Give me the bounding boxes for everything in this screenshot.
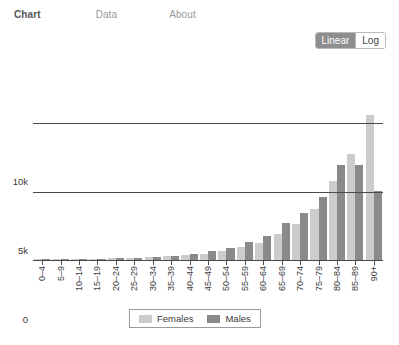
bar-males[interactable] [208,251,216,260]
x-axis-label: 10–14 [74,266,84,291]
x-axis-label-slot: 10–14 [70,266,88,304]
bar-males[interactable] [263,236,271,260]
x-axis-label-slot: 70–74 [291,266,309,304]
bar-females[interactable] [237,247,245,260]
bar-group [217,60,235,260]
bar-females[interactable] [366,115,374,260]
y-axis-tick-label: 0 [23,314,28,325]
bar-females[interactable] [329,181,337,260]
x-axis-label: 90+ [369,266,379,281]
x-axis-label-slot: 35–39 [162,266,180,304]
bar-females[interactable] [218,251,226,260]
tick-mark [79,261,80,265]
tick-mark [97,261,98,265]
legend-swatch-males-icon [207,315,220,323]
x-axis-labels: 0–45–910–1415–1920–2425–2930–3435–3940–4… [33,266,383,304]
x-axis-label: 0–4 [37,266,47,281]
nav-item-data[interactable]: Data [96,9,118,20]
bar-group [107,60,125,260]
x-axis-label-slot: 55–59 [236,266,254,304]
x-axis-label: 75–79 [314,266,324,291]
scale-toggle-group: Linear Log [315,32,387,49]
bar-group [254,60,272,260]
legend-swatch-females-icon [139,315,152,323]
x-axis-label: 30–34 [148,266,158,291]
x-axis-label-slot: 0–4 [33,266,51,304]
x-axis-label-slot: 30–34 [144,266,162,304]
tick-mark [208,261,209,265]
x-axis-label: 65–69 [277,266,287,291]
bar-females[interactable] [255,243,263,260]
bar-group [162,60,180,260]
nav-item-chart[interactable]: Chart [14,9,41,20]
nav-item-about[interactable]: About [169,9,196,20]
y-axis-tick-label: 5k [18,245,28,256]
x-axis-label-slot: 50–54 [217,266,235,304]
bar-group [88,60,106,260]
bar-group [33,60,51,260]
tick-mark [116,261,117,265]
x-axis-label: 25–29 [129,266,139,291]
tick-mark [190,261,191,265]
tick-mark [300,261,301,265]
x-axis-label-slot: 75–79 [309,266,327,304]
bar-series-container [33,60,383,260]
chart-legend: Females Males [129,309,261,328]
bar-males[interactable] [355,165,363,260]
x-axis-label-slot: 45–49 [199,266,217,304]
bar-group [144,60,162,260]
bar-males[interactable] [226,248,234,260]
bar-group [70,60,88,260]
bar-males[interactable] [300,213,308,260]
bar-group [346,60,364,260]
x-axis-label-slot: 25–29 [125,266,143,304]
bar-group [125,60,143,260]
x-axis-label: 40–44 [185,266,195,291]
bar-females[interactable] [274,234,282,260]
y-axis-tick-label: 10k [13,176,28,187]
bar-females[interactable] [347,154,355,260]
x-axis-label-slot: 80–84 [328,266,346,304]
x-axis-label: 5–9 [56,266,66,281]
gridline-5k [33,192,383,193]
bar-males[interactable] [319,197,327,260]
scale-toggle-log[interactable]: Log [356,33,385,48]
bar-group [51,60,69,260]
bar-group [180,60,198,260]
legend-item-males[interactable]: Males [207,313,250,324]
tick-mark [374,261,375,265]
x-axis-label-slot: 20–24 [107,266,125,304]
x-axis-label: 60–64 [258,266,268,291]
x-axis-label: 80–84 [332,266,342,291]
x-axis-label: 20–24 [111,266,121,291]
scale-toggle-linear[interactable]: Linear [316,33,356,48]
tick-mark [282,261,283,265]
top-nav: Chart Data About [0,0,399,28]
x-axis-label: 35–39 [166,266,176,291]
bar-males[interactable] [337,165,345,260]
tick-mark [153,261,154,265]
bar-males[interactable] [374,191,382,260]
x-axis-label: 15–19 [92,266,102,291]
bar-females[interactable] [310,209,318,260]
x-axis-label-slot: 15–19 [88,266,106,304]
x-axis-label: 70–74 [295,266,305,291]
bar-males[interactable] [282,223,290,260]
x-axis-label-slot: 5–9 [51,266,69,304]
x-axis-label-slot: 85–89 [346,266,364,304]
x-axis-label-slot: 90+ [365,266,383,304]
tick-mark [355,261,356,265]
bar-males[interactable] [245,242,253,260]
legend-item-females[interactable]: Females [139,313,193,324]
bar-group [236,60,254,260]
tick-mark [319,261,320,265]
tick-mark [42,261,43,265]
tick-mark [337,261,338,265]
x-axis-label: 85–89 [350,266,360,291]
legend-label-females: Females [157,313,193,324]
tick-mark [61,261,62,265]
legend-label-males: Males [225,313,250,324]
bar-females[interactable] [292,224,300,260]
gridline-10k [33,123,383,124]
x-axis-label-slot: 65–69 [272,266,290,304]
